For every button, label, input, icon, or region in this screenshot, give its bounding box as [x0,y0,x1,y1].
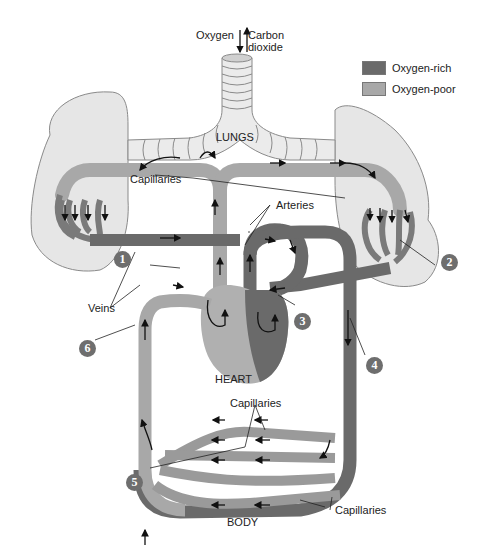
legend-label: Oxygen-rich [392,62,451,74]
body-capillaries-bottom-label: Capillaries [335,504,386,516]
carbon-dioxide-label-line2: dioxide [248,41,283,53]
step-badge-6: 6 [79,340,96,357]
veins-label: Veins [88,302,115,314]
oxygen-rich-swatch [362,61,386,75]
legend-item-oxygen-rich: Oxygen-rich [362,58,456,78]
oxygen-poor-swatch [362,82,386,96]
carbon-dioxide-label-line1: Carbon [248,29,284,41]
step-badge-2: 2 [441,254,458,271]
trachea [128,54,335,160]
heart [201,285,289,384]
step-badge-4: 4 [366,357,383,374]
step-badge-5: 5 [126,474,143,491]
body-capillaries [155,432,340,504]
legend-label: Oxygen-poor [392,83,456,95]
step-badge-1: 1 [114,251,131,268]
legend: Oxygen-rich Oxygen-poor [362,58,456,100]
body-capillaries-top-label: Capillaries [230,397,281,409]
lung-capillaries-label: Capillaries [130,173,181,185]
lungs-label: LUNGS [216,131,254,143]
step-badge-3: 3 [294,313,311,330]
heart-label: HEART [215,373,252,385]
legend-item-oxygen-poor: Oxygen-poor [362,79,456,99]
body-label: BODY [227,516,258,528]
oxygen-label: Oxygen [196,29,234,41]
arteries-label: Arteries [276,199,314,211]
